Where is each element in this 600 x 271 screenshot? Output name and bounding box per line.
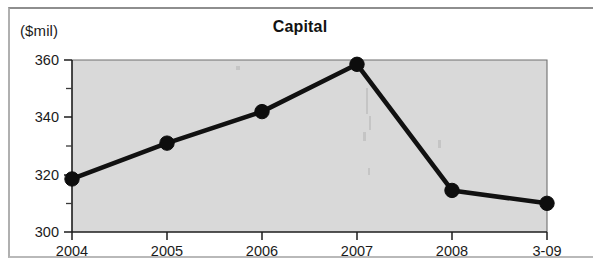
x-tick-label-2005: 2005 (151, 243, 183, 259)
data-point-3-09 (540, 196, 554, 210)
data-point-2008 (445, 183, 459, 197)
chart-figure: ($mil) Capital (0, 0, 600, 271)
x-tick-label-2007: 2007 (341, 243, 373, 259)
plot-area: 360 340 320 300 2004 2005 2006 2007 2008… (0, 0, 600, 271)
x-tick-label-2008: 2008 (436, 243, 468, 259)
y-tick-label-300: 300 (35, 224, 59, 240)
y-axis-ticks (64, 60, 72, 232)
y-tick-label-360: 360 (35, 52, 59, 68)
x-axis-ticks (72, 232, 547, 240)
data-point-2005 (160, 136, 174, 150)
y-tick-label-320: 320 (35, 167, 59, 183)
data-point-2004 (65, 172, 79, 186)
y-tick-label-340: 340 (35, 109, 59, 125)
x-tick-label-3-09: 3-09 (532, 243, 561, 259)
data-point-2007 (350, 57, 364, 71)
x-tick-label-2004: 2004 (56, 243, 88, 259)
line-chart-svg: 360 340 320 300 2004 2005 2006 2007 2008… (0, 0, 600, 271)
data-point-2006 (255, 104, 269, 118)
x-tick-label-2006: 2006 (246, 243, 278, 259)
